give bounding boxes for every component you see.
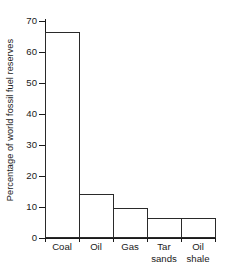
x-axis-tick-labels: CoalOilGasTarsandsOilshale (45, 241, 216, 274)
y-axis-tick-label: 30 (1, 140, 37, 150)
x-axis-tick (79, 238, 80, 242)
x-axis-tick-label-line: shale (181, 253, 215, 265)
x-axis-tick-label-line: Gas (121, 241, 139, 252)
bar-oil (79, 194, 114, 238)
bar-coal (45, 32, 80, 238)
x-axis-tick (215, 238, 216, 242)
y-axis-tick (39, 52, 45, 53)
bar-tar-sands (147, 218, 182, 238)
bar-oil-shale (181, 218, 216, 238)
x-axis-tick (45, 238, 46, 242)
y-axis-tick-label: 10 (1, 202, 37, 212)
y-axis-tick-label: 0 (1, 233, 37, 243)
x-axis-line (45, 238, 216, 239)
y-axis-tick (39, 207, 45, 208)
y-axis-tick-label: 40 (1, 109, 37, 119)
plot-area (45, 21, 215, 238)
y-axis-tick-labels: 010203040506070 (0, 0, 37, 274)
bar-gas (113, 208, 148, 238)
x-axis-tick-label-line: Oil (90, 241, 102, 252)
y-axis-tick (39, 114, 45, 115)
y-axis-tick-label: 50 (1, 78, 37, 88)
x-axis-tick-label-tar-sands: Tarsands (147, 241, 181, 264)
x-axis-tick-label-oil-shale: Oilshale (181, 241, 215, 264)
x-axis-tick-label-line: Tar (157, 241, 170, 252)
y-axis-tick (39, 145, 45, 146)
x-axis-tick (147, 238, 148, 242)
bar-chart: Percentage of world fossil fuel reserves… (0, 0, 226, 274)
y-axis-tick-label: 70 (1, 16, 37, 26)
y-axis-tick (39, 176, 45, 177)
x-axis-tick-label-gas: Gas (113, 241, 147, 253)
y-axis-tick-label: 20 (1, 171, 37, 181)
x-axis-tick-label-line: Coal (52, 241, 72, 252)
y-axis-tick-label: 60 (1, 47, 37, 57)
x-axis-tick-label-coal: Coal (45, 241, 79, 253)
x-axis-tick (181, 238, 182, 242)
x-axis-tick-label-line: sands (147, 253, 181, 265)
y-axis-tick (39, 21, 45, 22)
x-axis-tick-label-line: Oil (192, 241, 204, 252)
y-axis-tick (39, 83, 45, 84)
x-axis-tick-label-oil: Oil (79, 241, 113, 253)
x-axis-tick (113, 238, 114, 242)
